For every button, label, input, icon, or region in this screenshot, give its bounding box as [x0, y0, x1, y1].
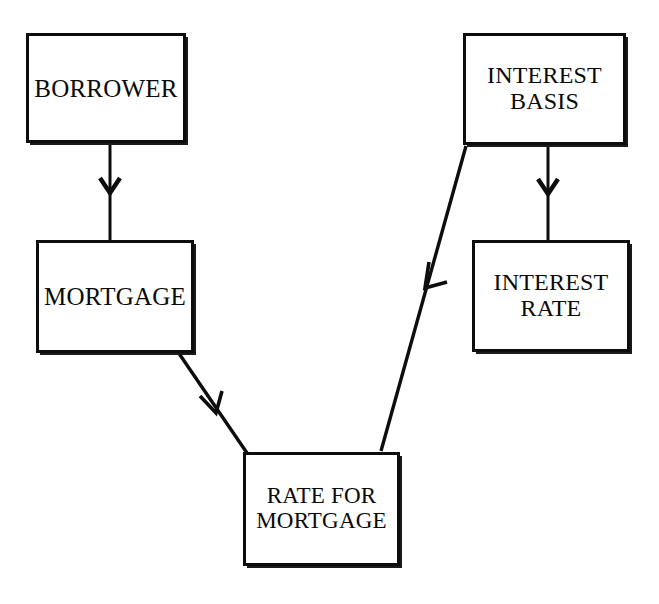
edge-interest-basis-to-rate-for-mortgage-line — [381, 146, 466, 451]
edge-borrower-to-mortgage — [100, 143, 120, 241]
node-rate-for-mortgage-label: RATE FOR MORTGAGE — [253, 484, 390, 534]
node-interest-basis-label: INTEREST BASIS — [484, 63, 605, 115]
edge-interest-basis-to-interest-rate — [538, 145, 558, 241]
node-borrower-label: BORROWER — [31, 75, 180, 102]
node-mortgage-label: MORTGAGE — [41, 283, 189, 310]
node-mortgage[interactable]: MORTGAGE — [36, 240, 194, 353]
node-interest-rate-label: INTEREST RATE — [491, 270, 612, 322]
edge-mortgage-to-rate-for-mortgage-line — [178, 352, 247, 453]
diagram-canvas: BORROWER MORTGAGE INTEREST BASIS INTERES… — [0, 0, 659, 604]
node-interest-basis[interactable]: INTEREST BASIS — [463, 33, 626, 145]
edge-mortgage-to-rate-for-mortgage — [178, 352, 247, 453]
node-interest-rate[interactable]: INTEREST RATE — [472, 240, 630, 352]
node-rate-for-mortgage[interactable]: RATE FOR MORTGAGE — [243, 452, 400, 566]
edge-interest-basis-to-rate-for-mortgage — [381, 146, 466, 451]
node-borrower[interactable]: BORROWER — [26, 33, 186, 143]
